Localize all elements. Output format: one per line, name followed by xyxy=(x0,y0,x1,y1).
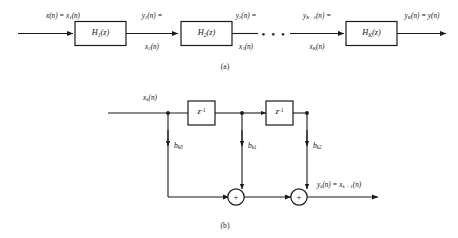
diagram-vector-layer xyxy=(0,0,458,238)
block-label-h1: H1(z) xyxy=(92,29,110,38)
signal-label-output-b: yk(n) = xk + 1(n) xyxy=(317,182,361,190)
signal-label-xk-bottom: xK(n) xyxy=(310,44,325,52)
signal-label-ykm1-top: yK - 1(n) = xyxy=(303,13,331,21)
signal-label-x3-bottom: x3(n) xyxy=(239,44,253,52)
block-label-h2: H2(z) xyxy=(198,29,216,38)
signal-label-x2-bottom: x2(n) xyxy=(145,44,159,52)
adder-symbol-2: + xyxy=(297,193,302,202)
coefficient-label-bk2: bk2 xyxy=(313,142,322,150)
adder-symbol-1: + xyxy=(234,193,239,202)
signal-label-y1-top: y1(n) = xyxy=(142,13,163,21)
caption-b: (b) xyxy=(221,222,230,230)
signal-label-output-a: yK(n) = y(n) xyxy=(405,13,440,21)
signal-label-input-b: xk(n) xyxy=(143,95,157,103)
delay-block-label-1: z-1 xyxy=(198,108,206,117)
coefficient-label-bk0: bk0 xyxy=(174,142,183,150)
signal-label-input-a: x(n) = x1(n) xyxy=(46,13,80,21)
figure-canvas: x(n) = x1(n) H1(z) H2(z) HK(z) y1(n) = x… xyxy=(0,0,458,238)
caption-a: (a) xyxy=(221,63,229,71)
ellipsis-cascade: • • • xyxy=(261,29,286,40)
coefficient-label-bk1: bk1 xyxy=(248,142,257,150)
delay-block-label-2: z-1 xyxy=(276,108,284,117)
block-label-hk: HK(z) xyxy=(362,29,381,38)
signal-label-y2-top: y2(n) = xyxy=(236,13,257,21)
